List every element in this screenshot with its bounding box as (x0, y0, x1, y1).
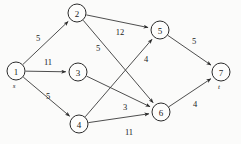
graph-figure: 5115125341154 1s234567t (0, 0, 241, 144)
network-graph-svg: 5115125341154 1s234567t (0, 0, 241, 144)
node-2[interactable]: 2 (68, 4, 86, 22)
node-label-4: 4 (77, 120, 82, 130)
edge-weight-1-2: 5 (36, 33, 40, 43)
node-1[interactable]: 1s (7, 62, 25, 90)
node-3[interactable]: 3 (69, 63, 87, 81)
node-label-5: 5 (158, 26, 163, 36)
node-label-7: 7 (219, 68, 224, 78)
edge-5-to-7 (168, 35, 211, 65)
edge-2-to-5 (86, 15, 148, 28)
node-6[interactable]: 6 (152, 103, 170, 121)
node-7[interactable]: 7t (212, 63, 230, 91)
node-label-1: 1 (14, 67, 19, 77)
node-5[interactable]: 5 (151, 21, 169, 39)
edge-3-to-6 (87, 76, 150, 107)
edge-weight-1-4: 5 (46, 91, 50, 101)
node-tag-7: t (218, 83, 221, 91)
node-label-3: 3 (76, 68, 81, 78)
edge-weight-2-5: 12 (116, 27, 125, 37)
edge-labels-layer: 5115125341154 (36, 27, 198, 137)
edge-weight-6-7: 4 (193, 99, 198, 109)
edge-weight-3-6: 3 (123, 102, 127, 112)
edge-1-to-3 (25, 71, 65, 72)
edge-4-to-6 (88, 114, 149, 123)
node-tag-1: s (13, 82, 16, 90)
nodes-layer: 1s234567t (7, 4, 230, 133)
edge-6-to-7 (169, 79, 211, 107)
node-label-2: 2 (75, 9, 80, 19)
edge-weight-5-7: 5 (192, 36, 196, 46)
node-4[interactable]: 4 (70, 115, 88, 133)
edge-weight-2-6: 5 (96, 43, 100, 53)
edge-weight-4-5: 4 (144, 54, 149, 64)
node-label-6: 6 (159, 108, 164, 118)
edge-weight-1-3: 11 (44, 57, 52, 67)
edge-weight-4-6: 11 (125, 127, 133, 137)
